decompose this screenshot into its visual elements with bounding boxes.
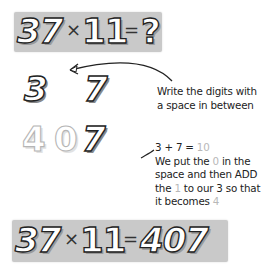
step2-digit-0: 0 <box>54 122 78 156</box>
bottom-equation-equals: = <box>123 228 138 249</box>
step1-digit-7: 7 <box>84 72 108 106</box>
bottom-equation-left: 37 <box>15 220 60 260</box>
step1-note-line1: Write the digits with <box>157 85 257 99</box>
step2-line2: We put the 0 in the <box>155 155 260 169</box>
step2-sum-line: 3 + 7 = 10 <box>155 141 260 155</box>
step2-digit-7: 7 <box>82 122 106 156</box>
step2-line4-text-a: the <box>155 182 174 194</box>
step2-line4-text-b: to our 3 so that <box>181 182 261 194</box>
step2-line3: space and then ADD <box>155 168 260 182</box>
step2-line5-text-a: it becomes <box>155 195 213 207</box>
step2-digit-4: 4 <box>22 122 46 156</box>
step2-line4: the 1 to our 3 so that <box>155 182 260 196</box>
bottom-equation-operator: × <box>64 228 79 249</box>
step1-note-line2: a space in between <box>157 99 257 113</box>
step2-line5-four: 4 <box>213 195 219 207</box>
step2-sum-prefix: 3 + 7 = <box>155 141 197 153</box>
bottom-equation-result: 407 <box>140 220 208 260</box>
step2-line2-text-a: We put the <box>155 155 213 167</box>
step2-line2-text-b: in the <box>219 155 250 167</box>
step2-sum-value: 10 <box>197 141 210 153</box>
step2-note: 3 + 7 = 10 We put the 0 in the space and… <box>155 141 260 209</box>
step2-line5: it becomes 4 <box>155 195 260 209</box>
step1-note: Write the digits with a space in between <box>157 85 257 112</box>
step1-digit-3: 3 <box>24 72 48 106</box>
bottom-equation-right: 11 <box>80 220 125 260</box>
